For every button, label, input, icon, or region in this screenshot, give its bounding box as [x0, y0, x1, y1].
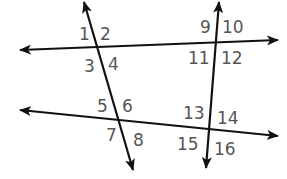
- angle-label-12: 12: [221, 48, 243, 68]
- angle-label-9: 9: [200, 17, 211, 37]
- angle-label-15: 15: [177, 134, 199, 154]
- angle-label-5: 5: [97, 96, 108, 116]
- angle-label-3: 3: [84, 56, 95, 76]
- angle-label-8: 8: [133, 130, 144, 150]
- angle-label-14: 14: [217, 108, 239, 128]
- angle-label-16: 16: [214, 139, 236, 159]
- angle-label-11: 11: [188, 48, 210, 68]
- angle-label-10: 10: [222, 17, 244, 37]
- angle-labels-group: 12345678910111213141516: [79, 17, 244, 159]
- parallel-lines-transversals-diagram: 12345678910111213141516: [0, 0, 287, 179]
- angle-label-1: 1: [79, 24, 90, 44]
- angle-label-2: 2: [100, 24, 111, 44]
- bottom-horizontal-line: [20, 110, 278, 136]
- angle-label-13: 13: [183, 103, 205, 123]
- angle-label-4: 4: [108, 54, 119, 74]
- angle-label-7: 7: [106, 125, 117, 145]
- diagram-canvas: 12345678910111213141516: [0, 0, 287, 179]
- angle-label-6: 6: [122, 96, 133, 116]
